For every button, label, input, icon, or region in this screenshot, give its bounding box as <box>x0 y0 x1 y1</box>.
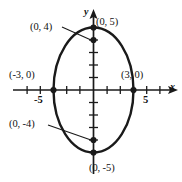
label-point-0-5: (0, 5) <box>96 17 118 28</box>
label-point-0-neg4: (0, -4) <box>9 119 35 130</box>
x-tick-label-neg5: -5 <box>34 95 43 106</box>
x-tick-label-5: 5 <box>143 95 148 106</box>
point-0-neg4 <box>90 137 96 143</box>
coordinate-plane-svg <box>0 0 182 182</box>
label-point-0-4: (0, 4) <box>30 22 52 33</box>
x-axis-label: x <box>170 82 175 92</box>
leader-line-lower-focus <box>48 125 91 140</box>
point-0-neg5 <box>90 149 96 155</box>
label-point-neg3-0: (-3, 0) <box>9 70 35 81</box>
label-point-0-neg5: (0, -5) <box>89 163 115 174</box>
graph-figure: (0, 5) (0, 4) (-3, 0) (3, 0) (0, -4) (0,… <box>0 0 182 182</box>
point-neg3-0 <box>50 87 56 93</box>
label-point-3-0: (3, 0) <box>121 70 143 81</box>
point-3-0 <box>130 87 136 93</box>
point-0-4 <box>90 37 96 43</box>
y-axis-label: y <box>84 7 88 17</box>
x-axis <box>13 86 178 94</box>
y-axis <box>90 9 98 174</box>
